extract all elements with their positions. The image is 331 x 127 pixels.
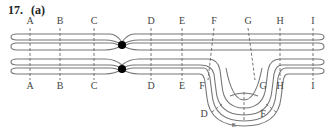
label-E-top: E [179,15,185,26]
label-F-loop: F [260,108,266,119]
label-B-bottom: B [57,80,64,91]
top-labels: A B C D E F G H I [26,15,314,26]
label-D-bottom: D [147,80,154,91]
label-I-top: I [311,15,314,26]
label-B-top: B [57,15,64,26]
label-F-bottom: F [199,80,205,91]
label-D-top: D [147,15,154,26]
bottom-chromatid-1-left-seg [105,59,208,65]
label-E-loop: E [232,121,236,127]
bottom-centromere [118,65,126,73]
label-I-bottom: I [311,80,314,91]
label-C-top: C [91,15,98,26]
top-chromatid-2 [11,43,324,50]
label-A-bottom: A [26,80,34,91]
label-H-bottom: H [276,80,283,91]
label-C-bottom: C [91,80,98,91]
label-F-top: F [211,15,217,26]
locus-G [248,28,255,80]
locus-lines [30,28,313,122]
label-D-loop: D [200,108,207,119]
bottom-chromatid-2 [11,68,200,74]
label-A-top: A [26,15,34,26]
top-chromosome [11,34,324,50]
bottom-chromosome [11,59,324,126]
inversion-loop-diagram: A B C D E F G H I A B C D E F G H I D E … [0,0,331,127]
bottom-labels: A B C D E F G H I D E F [26,80,314,127]
label-G-bottom: G [259,80,266,91]
label-E-bottom: E [179,80,185,91]
label-G-top: G [244,15,251,26]
label-H-top: H [276,15,283,26]
top-centromere [118,41,126,49]
